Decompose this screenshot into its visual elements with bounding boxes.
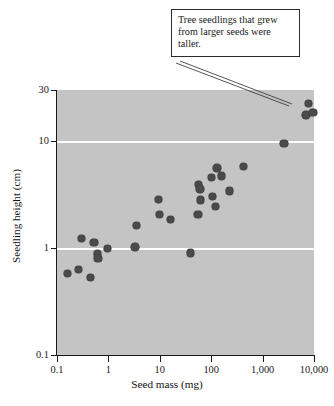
x-axis-tick [263,356,264,362]
data-point [213,164,220,171]
x-axis-tick [57,356,58,362]
plot-area [57,90,314,355]
data-point [78,235,85,242]
gridline-y [57,141,314,143]
data-point [280,140,287,147]
figure-root: Tree seedlings that grew from larger see… [0,0,334,406]
data-point [133,222,140,229]
x-axis-tick [314,356,315,362]
x-axis-tick [108,356,109,362]
data-point [155,196,162,203]
data-point [75,266,82,273]
data-point [240,163,247,170]
x-axis-tick [211,356,212,362]
x-axis-tick-label: 10,000 [284,364,334,375]
data-point [156,211,163,218]
data-point [94,255,101,262]
data-point [104,245,111,252]
data-point [90,239,97,246]
data-point [309,109,316,116]
data-point [305,100,312,107]
x-axis-tick [160,356,161,362]
data-point [197,196,204,203]
x-axis-title: Seed mass (mg) [0,378,334,390]
data-point [208,174,215,181]
data-point [218,172,225,179]
x-axis-line [56,355,315,356]
data-point [187,249,194,256]
data-point [64,270,71,277]
data-point [196,185,203,192]
y-axis-tick-label: 0.1 [8,349,49,360]
y-axis-tick-label: 30 [8,84,49,95]
data-point [167,216,174,223]
callout-annotation: Tree seedlings that grew from larger see… [171,9,300,57]
data-point [194,211,201,218]
data-point [87,274,94,281]
data-point [131,243,138,250]
data-point [226,187,233,194]
data-point [212,203,219,210]
callout-text: Tree seedlings that grew from larger see… [178,14,278,49]
y-axis-title: Seedling height (cm) [10,116,22,316]
data-point [209,193,216,200]
